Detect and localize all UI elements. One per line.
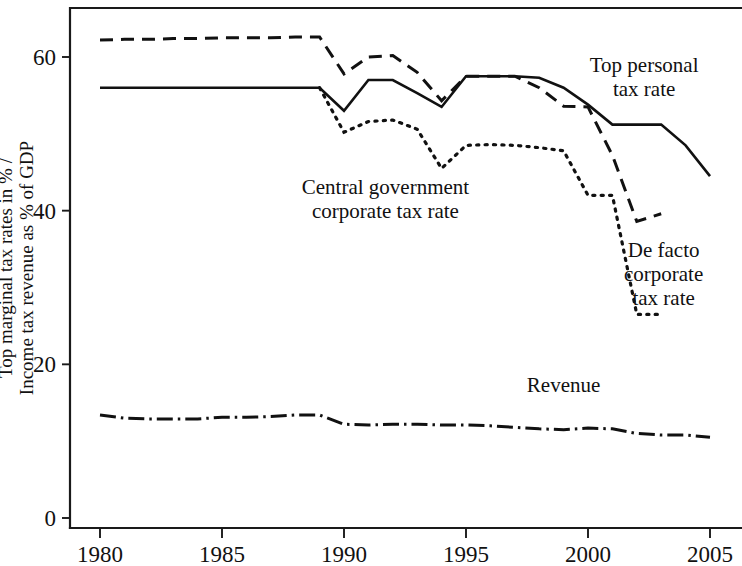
x-tick-label: 1990	[321, 542, 367, 566]
x-tick-label: 2005	[687, 542, 733, 566]
x-tick-label: 2000	[565, 542, 611, 566]
series-label-line: corporate tax rate	[312, 199, 459, 223]
y-axis-title-line-2: Income tax revenue as % of GDP	[16, 141, 37, 395]
chart-figure: 0204060 198019851990199520002005 Top per…	[0, 0, 742, 566]
series-label-line: Revenue	[527, 373, 600, 397]
series-label-line: Top personal	[590, 53, 699, 77]
y-axis-title: Top marginal tax rates in % / Income tax…	[0, 141, 37, 395]
y-axis-title-line-1: Top marginal tax rates in % /	[0, 157, 16, 378]
series-label: Central governmentcorporate tax rate	[302, 175, 470, 223]
series-label-line: tax rate	[613, 77, 675, 101]
series-label-line: corporate	[624, 262, 703, 286]
series-label-line: De facto	[628, 238, 700, 262]
y-tick-label: 60	[33, 45, 56, 70]
x-tick-label: 1995	[443, 542, 489, 566]
x-tick-label: 1985	[199, 542, 245, 566]
tax-rates-line-chart: 0204060 198019851990199520002005 Top per…	[0, 0, 742, 566]
series-label: De factocorporatetax rate	[624, 238, 703, 310]
series-label: Revenue	[527, 373, 600, 397]
series-label-line: tax rate	[632, 286, 694, 310]
series-label-line: Central government	[302, 175, 470, 199]
x-tick-label: 1980	[77, 542, 123, 566]
y-tick-label: 0	[45, 506, 57, 531]
